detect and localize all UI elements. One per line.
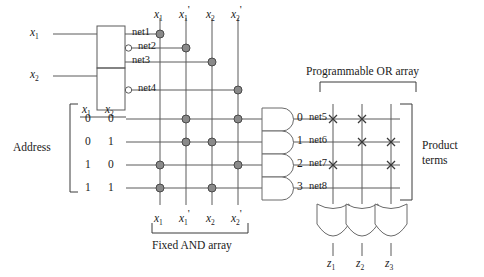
label-output-z3: z3 — [385, 258, 393, 272]
and-gate-stack — [262, 108, 294, 200]
and-gate-index-3: 3 — [297, 181, 303, 193]
label-column-top-x1-prime: x1' — [179, 4, 190, 23]
product-terms-bracket-path — [400, 104, 412, 200]
label-product-terms-line2: terms — [422, 155, 448, 167]
and-gate-index-0: 0 — [297, 112, 303, 124]
dot-net1-x1 — [156, 30, 164, 38]
and-array-row-lines — [126, 119, 262, 188]
and-dot-r0-c3 — [234, 115, 242, 123]
label-net3: net3 — [132, 55, 150, 66]
label-input-x1: x1 — [30, 27, 39, 41]
label-column-bottom-x2: x2 — [206, 208, 215, 227]
address-row-2-bit0: 1 — [85, 159, 91, 171]
and-dot-r0-c1 — [182, 115, 190, 123]
input-buffer-block — [97, 26, 238, 110]
address-row-3-bit1: 1 — [108, 182, 114, 194]
and-gate-net-3: net8 — [309, 181, 327, 192]
label-net1: net1 — [132, 27, 150, 38]
label-column-bottom-x2-prime: x2' — [231, 208, 242, 227]
product-terms-bracket — [400, 104, 412, 200]
or-gate-row — [317, 204, 407, 236]
figure-canvas: x1 x2 net1 net2 net3 net4 x1 x1' x2 x2' … — [0, 0, 484, 277]
dot-net3-x2 — [208, 58, 216, 66]
and-dot-r1-c1 — [182, 138, 190, 146]
dot-net4-x2p — [234, 86, 242, 94]
and-gate-net-2: net7 — [309, 158, 327, 169]
and-gate-3 — [262, 177, 293, 200]
or-array-row-lines — [294, 119, 401, 188]
label-net4: net4 — [138, 83, 156, 94]
address-row-1-bit0: 0 — [85, 136, 91, 148]
label-column-top-x2: x2 — [206, 4, 215, 23]
and-gate-index-2: 2 — [297, 158, 303, 170]
and-dot-r3-c0 — [156, 184, 164, 192]
input-lines — [53, 34, 97, 76]
label-column-top-x2-prime: x2' — [231, 4, 242, 23]
and-gate-2 — [262, 154, 294, 177]
label-and-array-caption: Fixed AND array — [152, 240, 232, 252]
and-dot-r1-c2 — [208, 138, 216, 146]
label-net2: net2 — [138, 41, 156, 52]
dot-net2-x1p — [182, 44, 190, 52]
and-gate-index-1: 1 — [297, 135, 303, 147]
inverter-bubble-net4 — [125, 87, 131, 93]
or-gate-output-stems — [333, 243, 391, 256]
label-or-array-caption: Programmable OR array — [306, 66, 419, 78]
label-column-bottom-x1-prime: x1' — [179, 208, 190, 227]
or-gate-z1 — [317, 204, 349, 236]
label-product-terms-line1: Product — [422, 140, 458, 152]
address-row-1-bit1: 1 — [108, 136, 114, 148]
address-row-0-bit0: 0 — [85, 113, 91, 125]
address-row-2-bit1: 0 — [108, 159, 114, 171]
or-gate-z3 — [375, 204, 407, 236]
and-dot-r2-c0 — [156, 161, 164, 169]
label-address: Address — [13, 142, 51, 154]
or-array-bracket — [320, 82, 416, 92]
and-dot-r2-c3 — [234, 161, 242, 169]
buffer-box-x1 — [97, 26, 125, 68]
and-gate-1 — [262, 131, 294, 154]
address-bracket — [70, 104, 78, 192]
or-array-bracket-path — [320, 82, 416, 92]
and-gate-net-0: net5 — [309, 112, 327, 123]
and-gate-net-1: net6 — [309, 135, 327, 146]
label-column-bottom-x1: x1 — [154, 208, 163, 227]
label-output-z2: z2 — [356, 258, 364, 272]
and-gate-0 — [262, 108, 294, 131]
address-row-0-bit1: 0 — [108, 113, 114, 125]
label-input-x2: x2 — [30, 69, 39, 83]
label-output-z1: z1 — [327, 258, 335, 272]
inverter-bubble-net2 — [125, 45, 131, 51]
address-row-3-bit0: 1 — [85, 182, 91, 194]
label-column-top-x1: x1 — [154, 4, 163, 23]
and-array-column-lines — [160, 18, 238, 205]
diagram-svg — [0, 0, 484, 277]
or-gate-z2 — [346, 204, 378, 236]
and-dot-r3-c2 — [208, 184, 216, 192]
address-bracket-path — [70, 104, 78, 192]
